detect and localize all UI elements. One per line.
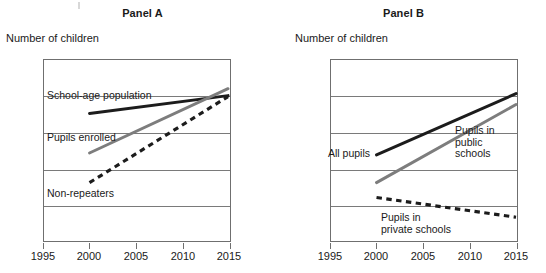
x-tick [470,243,471,249]
series-line-pupils-public-schools [377,105,516,183]
x-tick-label: 2015 [209,250,249,262]
x-tick-label: 2000 [69,250,109,262]
panel-a-x-ticks [43,243,231,249]
panel-b-axis-title: Number of children [295,32,388,44]
x-tick-label: 1995 [310,250,350,262]
label-school-age-population: School-age population [47,90,152,102]
panel-a: Panel A Number of children School-age po… [0,0,273,273]
panel-b-x-ticks [330,243,518,249]
series-line-all-pupils [377,94,516,155]
panel-b-x-tick-labels: 1995 2000 2005 2010 2015 [273,250,546,266]
x-tick [330,243,331,249]
panel-a-title: Panel A [6,7,279,19]
label-pupils-enrolled: Pupils enrolled [47,132,116,144]
x-tick-label: 2010 [450,250,490,262]
x-tick-label: 1995 [23,250,63,262]
label-non-repeaters: Non-repeaters [47,188,114,200]
panel-b-title: Panel B [267,7,540,19]
label-all-pupils: All pupils [328,148,370,160]
panel-a-x-tick-labels: 1995 2000 2005 2010 2015 [0,250,273,266]
x-tick [517,243,518,249]
x-tick [376,243,377,249]
panel-a-plot-area [43,59,231,242]
x-tick-label: 2000 [356,250,396,262]
x-tick-label: 2015 [496,250,536,262]
panel-b: Panel B Number of children All pupils Pu… [273,0,546,273]
x-tick [183,243,184,249]
x-tick [136,243,137,249]
x-tick [89,243,90,249]
x-tick-label: 2005 [403,250,443,262]
label-pupils-private-schools: Pupils in private schools [381,212,451,235]
panel-a-series-layer [44,60,230,241]
x-tick [43,243,44,249]
x-tick-label: 2005 [116,250,156,262]
label-pupils-public-schools: Pupils in public schools [455,125,495,160]
x-tick-label: 2010 [163,250,203,262]
x-tick [230,243,231,249]
x-tick [423,243,424,249]
panel-a-axis-title: Number of children [6,32,99,44]
